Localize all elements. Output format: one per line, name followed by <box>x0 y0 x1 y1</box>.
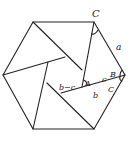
label-side-a: a <box>116 42 121 52</box>
angle-arc-c <box>120 77 122 82</box>
label-top-c: C <box>92 8 100 19</box>
pinwheel-line-0 <box>33 22 82 70</box>
label-seg-b: b <box>93 91 98 100</box>
label-angle-a: A <box>84 79 91 88</box>
pinwheel-line-4 <box>33 62 48 129</box>
hexagon-diagram: C a A b−c c B C b <box>0 0 130 146</box>
label-angle-c: C <box>108 85 114 94</box>
outer-hexagon <box>3 22 125 129</box>
label-seg-c: c <box>102 75 107 84</box>
pinwheel-line-1 <box>82 22 94 87</box>
label-angle-b: B <box>109 70 116 79</box>
pinwheel-line-5 <box>3 57 65 75</box>
label-seg-b-minus-c: b−c <box>59 83 76 92</box>
